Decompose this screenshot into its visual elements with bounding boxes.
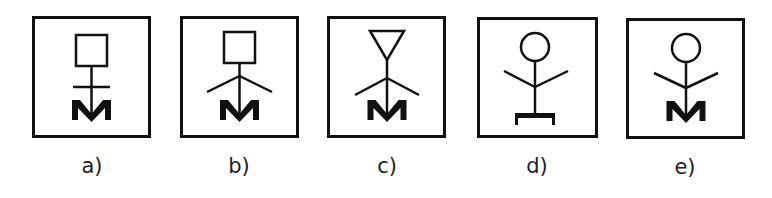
option-d-panel[interactable] [477,17,599,139]
option-e-label: e) [655,155,715,179]
figure-a-icon [32,16,152,138]
figure-c-icon [327,16,447,138]
figure-d-icon [477,17,599,139]
option-c-panel[interactable] [327,16,447,138]
option-c-label: c) [357,154,417,178]
option-b-panel[interactable] [180,16,300,138]
option-d-label: d) [507,154,567,178]
option-e-panel[interactable] [626,18,746,139]
option-a-label: a) [62,154,122,178]
figure-e-icon [626,18,746,139]
option-a-panel[interactable] [32,16,152,138]
option-b-label: b) [209,154,269,178]
figure-b-icon [180,16,300,138]
